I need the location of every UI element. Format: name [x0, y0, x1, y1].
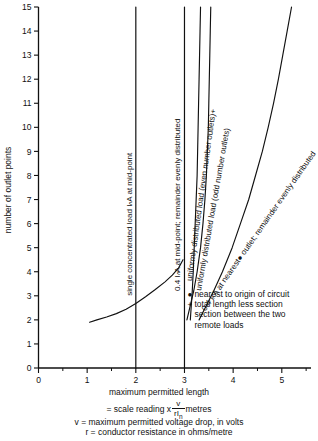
x-tick-label: 2: [133, 375, 138, 385]
formula-prefix: = scale reading x: [107, 404, 172, 414]
footnote-text: nearest to origin of circuit: [194, 289, 290, 299]
footnote-text: section between the two: [194, 309, 285, 319]
formula-numerator: v: [172, 399, 185, 409]
y-tick-label: 15: [22, 2, 32, 12]
caption-line-4: r = conductor resistance in ohms/metre: [0, 427, 318, 438]
x-tick-label: 4: [231, 375, 236, 385]
x-tick-label: 5: [279, 375, 284, 385]
y-tick-label: 13: [22, 50, 32, 60]
y-tick-label: 5: [27, 243, 32, 253]
axis-labels: number of outlet points: [3, 147, 13, 233]
y-tick-label: 9: [27, 147, 32, 157]
y-tick-label: 3: [27, 291, 32, 301]
label-04-in-midpoint: 0.4 IₙA at mid-point; remainder evenly d…: [173, 119, 182, 291]
y-tick-label: 2: [27, 315, 32, 325]
y-tick-label: 6: [27, 219, 32, 229]
y-axis-title: number of outlet points: [3, 147, 13, 233]
y-tick-label: 14: [22, 26, 32, 36]
footnote-text: remote loads: [194, 320, 243, 330]
y-tick-label: 11: [23, 98, 32, 108]
y-tick-label: 4: [27, 267, 32, 277]
formula-suffix: metres: [186, 404, 212, 414]
y-tick-label: 10: [22, 122, 32, 132]
label-single-concentrated-load: single concentrated load IₙA at mid-poin…: [125, 152, 134, 296]
x-tick-label: 3: [182, 375, 187, 385]
x-tick-label: 1: [85, 375, 90, 385]
chart-figure: 0123456789101112131415012345 single conc…: [0, 0, 318, 441]
y-tick-label: 0: [27, 363, 32, 373]
footnote-marker: +: [187, 300, 192, 309]
y-tick-label: 7: [27, 195, 32, 205]
caption-line-1: maximum permitted length: [0, 387, 318, 398]
y-tick-label: 1: [27, 339, 32, 349]
y-tick-label: 12: [22, 74, 32, 84]
x-tick-label: 0: [36, 375, 41, 385]
footnote-text: total length less section: [194, 299, 283, 309]
footnote-marker: ●: [187, 290, 192, 299]
y-tick-label: 8: [27, 171, 32, 181]
